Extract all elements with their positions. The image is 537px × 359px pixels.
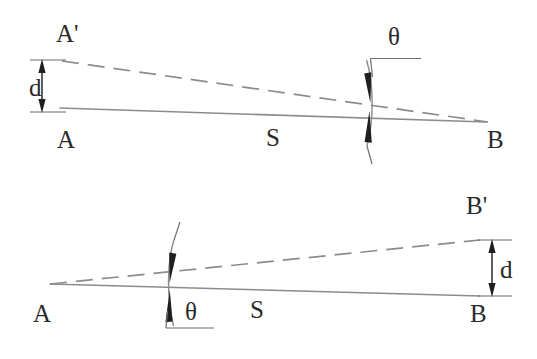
bottom-angle-leader-vertical xyxy=(166,311,168,328)
top-panel: A' d A S B θ xyxy=(29,20,504,164)
top-label-theta: θ xyxy=(388,23,400,50)
top-label-A: A xyxy=(57,126,75,153)
bottom-label-S: S xyxy=(250,296,264,323)
bottom-panel: B' d A θ S B xyxy=(33,192,513,328)
top-label-A-prime: A' xyxy=(56,20,79,47)
bottom-label-B: B xyxy=(470,300,487,327)
bottom-angle-arrowhead-upper xyxy=(169,253,176,284)
bottom-baseline-solid-line xyxy=(50,284,480,296)
bottom-dimension-arrowhead-down xyxy=(488,283,495,297)
bottom-sightline-dashed-line xyxy=(50,240,480,284)
top-dimension-arrowhead-down xyxy=(38,99,45,113)
top-label-d: d xyxy=(29,74,42,101)
top-label-B: B xyxy=(487,126,504,153)
top-label-S: S xyxy=(266,124,280,151)
diagram-root: A' d A S B θ xyxy=(0,0,537,359)
angular-separation-figure: A' d A S B θ xyxy=(0,0,537,359)
top-baseline-solid-line xyxy=(60,108,486,122)
top-angle-arrowhead-upper xyxy=(364,72,371,103)
top-dimension-arrowhead-up xyxy=(38,59,45,73)
bottom-label-A: A xyxy=(33,300,51,327)
bottom-label-B-prime: B' xyxy=(466,192,487,219)
bottom-dimension-arrowhead-up xyxy=(488,239,495,253)
bottom-label-theta: θ xyxy=(185,298,197,325)
top-angle-arc-tail-lower xyxy=(367,146,372,164)
top-sightline-dashed-line xyxy=(62,61,488,122)
bottom-label-d: d xyxy=(500,256,513,283)
bottom-angle-arc-tail-upper xyxy=(174,222,180,240)
